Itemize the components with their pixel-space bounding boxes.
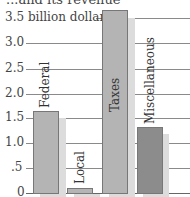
y-tick-1.5: 1.5 xyxy=(5,110,24,124)
bar-label-federal: Federal xyxy=(38,62,52,108)
y-tick-2.0: 2.0 xyxy=(5,86,24,100)
y-tick-3.5: 3.5 billion dollars xyxy=(5,10,111,24)
y-tick-2.5: 2.5 xyxy=(5,61,24,75)
bar-misc xyxy=(137,127,163,194)
y-tick-0: 0 xyxy=(17,185,25,197)
y-tick-1.0: 1.0 xyxy=(5,135,24,149)
bar-local xyxy=(67,188,93,194)
bar-label-taxes: Taxes xyxy=(108,78,122,112)
y-tick-0.5: .5 xyxy=(11,160,22,174)
bar-shadow-local xyxy=(74,194,100,197)
bar-label-local: Local xyxy=(73,151,87,184)
y-tick-3.0: 3.0 xyxy=(5,35,24,49)
bar-label-misc: Miscellaneous xyxy=(143,37,157,124)
chart-title: ...and its revenue xyxy=(6,0,121,7)
bar-federal xyxy=(33,111,59,194)
